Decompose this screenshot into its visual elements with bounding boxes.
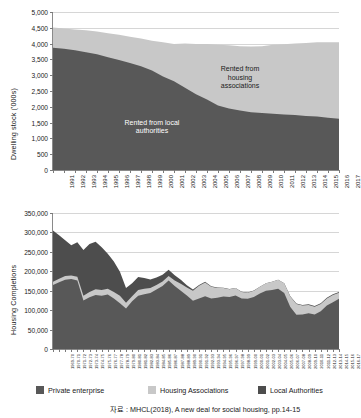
x-axis-tick-mark xyxy=(114,349,115,352)
x-axis-tick-label: 1986-87 xyxy=(173,354,178,369)
x-axis-tick-label: 2015-16 xyxy=(350,354,355,369)
chart1-y-axis-label: Dwelling stock ('000s) xyxy=(9,88,18,160)
y-axis-tick-label: 350,000 xyxy=(24,210,48,217)
legend-label: Private enterprise xyxy=(48,386,104,395)
x-axis-tick-mark xyxy=(77,349,78,352)
x-axis-tick-mark xyxy=(251,170,252,173)
x-axis-tick-mark xyxy=(217,349,218,352)
y-axis-tick-label: 0 xyxy=(44,167,48,174)
y-axis-tick-label: 200,000 xyxy=(24,268,48,275)
x-axis-tick-label: 1981-82 xyxy=(143,354,148,369)
x-axis-tick-mark xyxy=(218,170,219,173)
x-axis-tick-mark xyxy=(295,170,296,173)
x-axis-tick-label: 1999 xyxy=(157,175,163,188)
y-axis-tick-mark xyxy=(50,138,53,139)
y-axis-tick-label: 300,000 xyxy=(24,229,48,236)
source-caption: 자료 : MHCL(2018), A new deal for social h… xyxy=(110,404,300,414)
y-axis-tick-mark xyxy=(50,91,53,92)
x-axis-tick-label: 2010 xyxy=(278,175,284,188)
y-axis-tick-mark xyxy=(50,271,53,272)
x-axis-tick-label: 2014-15 xyxy=(344,354,349,369)
chart2-y-axis-label: Housing Completions xyxy=(9,265,18,335)
y-axis-tick-mark xyxy=(50,154,53,155)
x-axis-tick-label: 2001 xyxy=(179,175,185,188)
x-axis-tick-label: 2006 xyxy=(234,175,240,188)
x-axis-tick-label: 1991-92 xyxy=(204,354,209,369)
x-axis-tick-label: 2013 xyxy=(311,175,317,188)
x-axis-tick-mark xyxy=(53,349,54,352)
x-axis-tick-mark xyxy=(229,349,230,352)
x-axis-tick-label: 2000-01 xyxy=(259,354,264,369)
x-axis-tick-mark xyxy=(102,349,103,352)
x-axis-tick-label: 1992-93 xyxy=(210,354,215,369)
legend-swatch-icon xyxy=(258,386,266,394)
x-axis-tick-mark xyxy=(163,170,164,173)
x-axis-tick-mark xyxy=(240,170,241,173)
x-axis-tick-label: 1978-79 xyxy=(125,354,130,369)
x-axis-tick-label: 1998 xyxy=(146,175,152,188)
x-axis-tick-label: 1996-97 xyxy=(234,354,239,369)
y-axis-tick-mark xyxy=(50,213,53,214)
x-axis-tick-label: 1998-99 xyxy=(246,354,251,369)
x-axis-tick-label: 2014 xyxy=(322,175,328,188)
x-axis-tick-label: 1992 xyxy=(80,175,86,188)
x-axis-tick-mark xyxy=(96,349,97,352)
x-axis-tick-mark xyxy=(290,349,291,352)
x-axis-tick-label: 1984-85 xyxy=(161,354,166,369)
x-axis-tick-mark xyxy=(130,170,131,173)
x-axis-tick-mark xyxy=(185,170,186,173)
x-axis-tick-label: 1974-75 xyxy=(100,354,105,369)
y-axis-tick-label: 150,000 xyxy=(24,287,48,294)
y-axis-tick-mark xyxy=(50,330,53,331)
x-axis-tick-label: 1971-72 xyxy=(82,354,87,369)
y-axis-tick-mark xyxy=(50,75,53,76)
x-axis-tick-mark xyxy=(321,349,322,352)
x-axis-tick-mark xyxy=(315,349,316,352)
x-axis-tick-label: 1997 xyxy=(135,175,141,188)
x-axis-tick-label: 1993 xyxy=(91,175,97,188)
x-axis-tick-mark xyxy=(272,349,273,352)
x-axis-tick-mark xyxy=(59,349,60,352)
x-axis-tick-mark xyxy=(108,170,109,173)
x-axis-tick-label: 1972-73 xyxy=(88,354,93,369)
x-axis-tick-label: 1980-81 xyxy=(137,354,142,369)
x-axis-tick-mark xyxy=(296,349,297,352)
x-axis-tick-label: 1969-70 xyxy=(70,354,75,369)
y-axis-tick-label: 3,000 xyxy=(31,72,48,79)
x-axis-tick-label: 1996 xyxy=(124,175,130,188)
x-axis-tick-label: 2011-12 xyxy=(325,354,330,369)
x-axis-tick-mark xyxy=(120,349,121,352)
chart2-legend: Private enterpriseHousing AssociationsLo… xyxy=(36,384,336,396)
x-axis-tick-mark xyxy=(174,170,175,173)
x-axis-tick-mark xyxy=(150,349,151,352)
x-axis-tick-label: 1995 xyxy=(113,175,119,188)
x-axis-tick-label: 1976-77 xyxy=(113,354,118,369)
x-axis-tick-mark xyxy=(223,349,224,352)
x-axis-tick-label: 2009-10 xyxy=(313,354,318,369)
y-axis-tick-mark xyxy=(50,252,53,253)
x-axis-tick-mark xyxy=(262,170,263,173)
x-axis-tick-label: 1970-71 xyxy=(76,354,81,369)
x-axis-tick-mark xyxy=(169,349,170,352)
x-axis-tick-label: 1977-78 xyxy=(119,354,124,369)
y-axis-tick-label: 5,000 xyxy=(31,9,48,16)
x-axis-tick-mark xyxy=(141,170,142,173)
legend-label: Local Authorities xyxy=(270,386,323,395)
x-axis-tick-mark xyxy=(138,349,139,352)
x-axis-tick-label: 2007 xyxy=(245,175,251,188)
legend-swatch-icon xyxy=(36,386,44,394)
x-axis-tick-mark xyxy=(328,170,329,173)
y-axis-tick-label: 500 xyxy=(37,151,48,158)
x-axis-tick-mark xyxy=(75,170,76,173)
x-axis-tick-mark xyxy=(53,170,54,173)
x-axis-tick-label: 2012 xyxy=(300,175,306,188)
y-axis-tick-label: 3,500 xyxy=(31,56,48,63)
x-axis-tick-mark xyxy=(236,349,237,352)
x-axis-tick-mark xyxy=(181,349,182,352)
x-axis-tick-mark xyxy=(207,170,208,173)
x-axis-tick-mark xyxy=(284,349,285,352)
x-axis-tick-label: 2012-13 xyxy=(332,354,337,369)
x-axis-tick-label: 2015 xyxy=(333,175,339,188)
x-axis-tick-label: 2004 xyxy=(212,175,218,188)
